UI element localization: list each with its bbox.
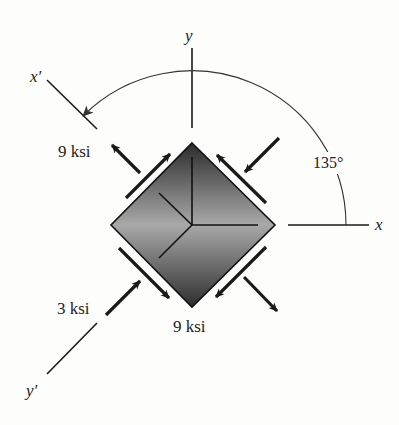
- y-prime-axis-label: y′: [24, 381, 38, 400]
- stress-element-diagram: y x x′ y′ 135°: [0, 0, 399, 425]
- stress-label-bottom: 9 ksi: [173, 317, 206, 336]
- normal-stress-arrow-lower-left: [106, 281, 140, 315]
- stress-label-lower-left: 3 ksi: [57, 299, 90, 318]
- normal-stress-arrow-lower-right: [244, 277, 277, 311]
- stress-label-upper-left: 9 ksi: [58, 142, 91, 161]
- y-axis-label: y: [183, 26, 193, 45]
- y-prime-axis: [47, 323, 97, 374]
- x-axis-label: x: [374, 215, 383, 234]
- normal-stress-arrow-upper-left: [112, 145, 140, 173]
- normal-stress-arrow-upper-right: [245, 138, 279, 172]
- x-prime-axis: [47, 80, 97, 129]
- angle-label: 135°: [313, 154, 343, 171]
- x-prime-axis-label: x′: [29, 67, 42, 86]
